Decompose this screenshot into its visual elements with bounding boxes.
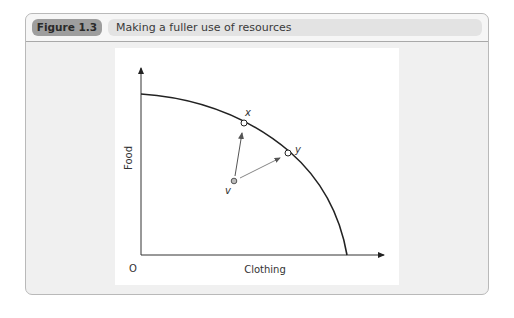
point-x [241,120,247,126]
point-y-label: y [294,144,302,155]
y-axis-label: Food [123,146,134,170]
arrow-v-to-y [240,158,280,178]
origin-label: O [129,263,137,274]
arrow-v-to-x [235,133,242,176]
ppf-diagram: x y v O Clothing Food [0,0,514,318]
point-y [285,150,291,156]
production-possibility-curve [141,94,347,255]
x-axis-label: Clothing [244,264,286,275]
point-v-label: v [225,185,232,196]
point-v [231,178,237,184]
point-x-label: x [244,107,251,118]
